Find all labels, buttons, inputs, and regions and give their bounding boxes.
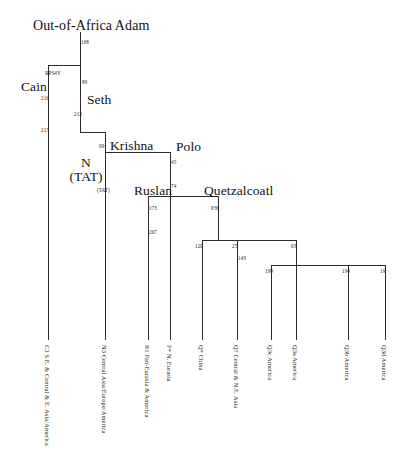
node-label-n-tat: (TAT): [66, 170, 106, 184]
leaf-haplogroup-q3b: Q3b: [344, 345, 351, 356]
leaf-region-c3: S.E. & Central & E. Asia/America: [44, 354, 51, 446]
leaf-region-q3a: America: [292, 357, 299, 380]
leaf-region-qstar: China: [198, 355, 205, 371]
leaf-region-q3b: America: [344, 358, 351, 381]
phylogenetic-tree-diagram: [0, 0, 413, 465]
edge-marker-seth-89: 89: [82, 79, 87, 85]
edge-marker-seth-213: 213: [74, 111, 82, 117]
node-label-seth: Seth: [87, 93, 111, 107]
edge-marker-143: 143: [238, 255, 246, 261]
leaf-label-q3a: Q3a America: [292, 345, 299, 380]
leaf-region-q3d: America: [381, 358, 388, 381]
leaf-haplogroup-n3: N3: [101, 345, 108, 353]
edge-marker-ruslan-173: 173: [149, 205, 157, 211]
leaf-haplogroup-pstar: P*: [166, 345, 173, 352]
edge-marker-cain-216: 216: [41, 95, 49, 101]
edge-marker-krishna-09: 09: [99, 143, 104, 149]
leaf-haplogroup-q3a: Q3a: [292, 345, 299, 356]
edge-marker-120: 120: [195, 243, 203, 249]
edge-marker-25: 25: [232, 243, 237, 249]
leaf-label-q3b: Q3b America: [344, 345, 351, 380]
leaf-haplogroup-q3c: Q3c: [267, 345, 274, 356]
leaf-haplogroup-q3d: Q3d: [381, 345, 388, 356]
leaf-region-qq: Central & N.E. Asia: [233, 354, 240, 408]
node-label-out-of-africa-adam: Out-of-Africa Adam: [33, 19, 149, 33]
edge-marker-quetz-p36: P36: [211, 205, 219, 211]
edge-marker-03: 03: [291, 243, 296, 249]
leaf-region-q3c: America: [267, 357, 274, 380]
leaf-label-c3: C3 S.E. & Central & E. Asia/America: [44, 345, 51, 446]
edge-marker-rps4y: RPS4Y: [45, 70, 61, 76]
node-label-n: N: [66, 156, 106, 170]
leaf-haplogroup-qq: Q?: [233, 345, 240, 353]
edge-marker-ntat: (TAT): [97, 187, 110, 193]
leaf-region-n3: Central Asia/Europe/America: [101, 355, 108, 434]
leaf-label-q3c: Q3c America: [267, 345, 274, 380]
leaf-label-n3: N3 Central Asia/Europe/America: [101, 345, 108, 433]
leaf-region-pstar: N. Eurasia: [166, 354, 173, 382]
leaf-label-qq: Q? Central & N.E. Asia: [233, 345, 240, 408]
leaf-label-pstar: P* N. Eurasia: [166, 345, 173, 382]
edge-marker-cain-217: 217: [41, 127, 49, 133]
leaf-label-r1: R1 Pan-Eurasia & America: [144, 345, 151, 417]
leaf-haplogroup-qstar: Q*: [198, 345, 205, 353]
leaf-region-r1: Pan-Eurasia & America: [144, 354, 151, 417]
edge-marker-199: 199: [265, 268, 273, 274]
node-label-cain: Cain: [21, 80, 47, 94]
edge-marker-ruslan-207: 207: [149, 229, 157, 235]
edge-marker-root-168: 168: [81, 39, 89, 45]
leaf-haplogroup-c3: C3: [44, 345, 51, 353]
edge-marker-polo-74: 74: [171, 183, 176, 189]
edge-marker-polo-45: 45: [171, 159, 176, 165]
node-label-krishna: Krishna: [110, 139, 153, 153]
node-label-quetzalcoatl: Quetzalcoatl: [204, 184, 273, 198]
node-label-polo: Polo: [176, 140, 201, 154]
edge-marker-19: 19: [380, 268, 385, 274]
edge-marker-194: 194: [342, 268, 350, 274]
leaf-label-qstar: Q* China: [198, 345, 205, 371]
leaf-haplogroup-r1: R1: [144, 345, 151, 353]
leaf-label-q3d: Q3d America: [381, 345, 388, 380]
node-label-ruslan: Ruslan: [134, 184, 172, 198]
